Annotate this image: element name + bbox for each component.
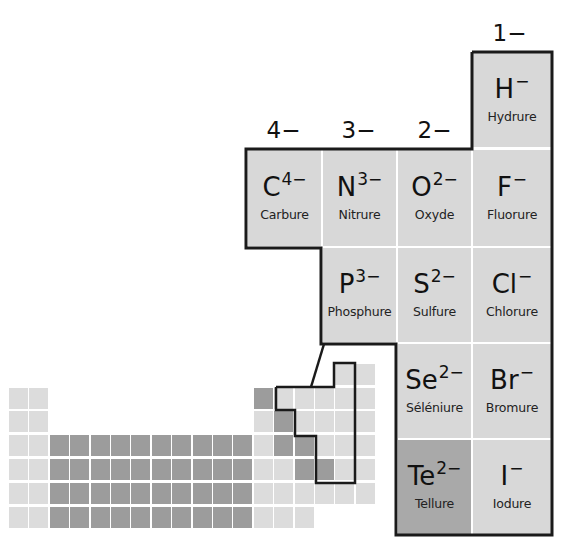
mini-cell — [274, 507, 293, 528]
ion-name: Phosphure — [327, 304, 391, 319]
ion-name: Carbure — [260, 207, 309, 222]
mini-cell — [91, 435, 110, 456]
ion-name: Séléniure — [406, 400, 463, 415]
mini-cell — [111, 435, 130, 456]
mini-cell — [233, 507, 252, 528]
mini-cell — [9, 411, 28, 432]
ion-symbol: H− — [495, 76, 530, 102]
connector-line — [311, 344, 324, 387]
ion-cell-nitride: N3− Nitrure — [323, 150, 396, 246]
mini-cell — [70, 459, 89, 480]
mini-cell — [356, 483, 375, 504]
mini-cell — [335, 364, 354, 385]
mini-cell — [172, 459, 191, 480]
ion-cell-selenide: Se2− Séléniure — [398, 344, 471, 438]
mini-cell — [111, 507, 130, 528]
mini-cell — [335, 459, 354, 480]
mini-cell — [315, 388, 334, 409]
mini-cell — [193, 459, 212, 480]
mini-cell — [335, 411, 354, 432]
mini-cell — [131, 459, 150, 480]
mini-cell — [152, 459, 171, 480]
mini-cell — [315, 435, 334, 456]
ion-name: Tellure — [415, 496, 454, 511]
mini-cell — [335, 483, 354, 504]
mini-cell — [50, 435, 69, 456]
mini-cell — [213, 483, 232, 504]
mini-cell — [295, 459, 314, 480]
mini-cell — [50, 483, 69, 504]
mini-cell — [356, 435, 375, 456]
mini-cell — [315, 483, 334, 504]
mini-cell — [152, 507, 171, 528]
ion-symbol: N3− — [337, 174, 383, 200]
mini-cell — [274, 483, 293, 504]
mini-cell — [70, 435, 89, 456]
ion-cell-chloride: Cl− Chlorure — [473, 248, 551, 342]
mini-cell — [254, 507, 273, 528]
mini-cell — [91, 507, 110, 528]
ion-cell-iodide: I− Iodure — [473, 440, 551, 534]
mini-cell — [274, 388, 293, 409]
mini-cell — [152, 483, 171, 504]
mini-cell — [193, 507, 212, 528]
ion-cell-sulfide: S2− Sulfure — [398, 248, 471, 342]
ion-symbol: O2− — [411, 174, 458, 200]
mini-cell — [91, 459, 110, 480]
mini-cell — [254, 483, 273, 504]
ion-name: Bromure — [486, 400, 538, 415]
mini-cell — [254, 435, 273, 456]
ion-name: Iodure — [493, 496, 532, 511]
mini-cell — [274, 459, 293, 480]
mini-cell — [193, 483, 212, 504]
charge-header-1minus: 1− — [472, 22, 547, 45]
mini-cell — [335, 388, 354, 409]
ion-name: Sulfure — [413, 304, 456, 319]
mini-cell — [131, 483, 150, 504]
ion-symbol: F− — [497, 174, 527, 200]
charge-header-3minus: 3− — [321, 119, 396, 142]
mini-cell — [233, 483, 252, 504]
ion-cell-oxide: O2− Oxyde — [398, 150, 471, 246]
mini-cell — [295, 507, 314, 528]
mini-cell — [172, 483, 191, 504]
mini-cell — [70, 483, 89, 504]
mini-cell — [213, 459, 232, 480]
mini-cell — [131, 435, 150, 456]
ion-cell-carbide: C4− Carbure — [248, 150, 321, 246]
ion-name: Fluorure — [487, 207, 537, 222]
mini-cell — [356, 388, 375, 409]
ion-name: Oxyde — [415, 207, 454, 222]
mini-cell — [29, 507, 48, 528]
ion-symbol: Br− — [490, 367, 534, 393]
mini-cell — [274, 411, 293, 432]
ion-symbol: S2− — [413, 271, 456, 297]
mini-cell — [172, 435, 191, 456]
mini-cell — [9, 483, 28, 504]
mini-cell — [356, 459, 375, 480]
mini-cell — [254, 459, 273, 480]
charge-header-4minus: 4− — [246, 119, 321, 142]
mini-cell — [111, 483, 130, 504]
mini-cell — [29, 388, 48, 409]
ion-symbol: Te2− — [408, 463, 462, 489]
mini-cell — [295, 435, 314, 456]
mini-cell — [233, 459, 252, 480]
ion-cell-bromide: Br− Bromure — [473, 344, 551, 438]
mini-cell — [91, 483, 110, 504]
mini-cell — [9, 507, 28, 528]
mini-cell — [9, 459, 28, 480]
mini-cell — [70, 507, 89, 528]
mini-cell — [131, 507, 150, 528]
mini-cell — [9, 388, 28, 409]
charge-header-2minus: 2− — [397, 119, 472, 142]
mini-cell — [356, 364, 375, 385]
ion-cell-phosphide: P3− Phosphure — [323, 248, 396, 342]
mini-cell — [9, 435, 28, 456]
mini-cell — [172, 507, 191, 528]
ion-symbol: Se2− — [405, 367, 464, 393]
mini-cell — [274, 435, 293, 456]
mini-cell — [315, 459, 334, 480]
mini-cell — [213, 435, 232, 456]
ion-cell-fluoride: F− Fluorure — [473, 150, 551, 246]
